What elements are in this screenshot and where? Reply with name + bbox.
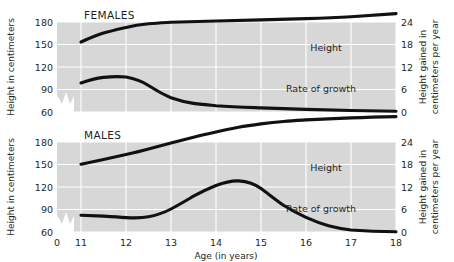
males-left-tick-180: 180	[35, 137, 53, 148]
females-right-tick-0: 0	[401, 107, 407, 118]
x-tick-15: 15	[255, 237, 267, 248]
females-left-tick-60: 60	[41, 107, 53, 118]
females-left-axis-title: Height in centimeters	[6, 18, 16, 116]
females-left-tick-90: 90	[41, 84, 53, 95]
x-axis-title: Age (in years)	[194, 251, 257, 261]
males-left-tick-90: 90	[41, 204, 53, 215]
x-tick-18: 18	[390, 237, 402, 248]
males-left-tick-150: 150	[35, 159, 53, 170]
females-panel-title: FEMALES	[84, 9, 135, 21]
x-tick-0: 0	[54, 237, 60, 248]
x-tick-12: 12	[120, 237, 132, 248]
males-rate-of-growth-label: Rate of growth	[286, 203, 356, 214]
males-left-tick-120: 120	[35, 182, 53, 193]
x-tick-13: 13	[165, 237, 177, 248]
females-left-tick-150: 150	[35, 39, 53, 50]
females-height-label: Height	[310, 42, 342, 53]
females-right-tick-24: 24	[401, 17, 413, 28]
males-right-tick-6: 6	[401, 204, 407, 215]
males-right-axis-title-line1: Height gained in	[418, 150, 428, 224]
males-left-tick-60: 60	[41, 227, 53, 238]
males-panel-title: MALES	[84, 129, 121, 141]
females-right-axis-title-line2: centimeters per year	[430, 19, 440, 114]
females-left-tick-180: 180	[35, 17, 53, 28]
males-left-axis-title: Height in centimeters	[6, 138, 16, 236]
females-right-tick-6: 6	[401, 84, 407, 95]
females-right-axis-title-line1: Height gained in	[418, 30, 428, 104]
females-left-tick-120: 120	[35, 62, 53, 73]
males-right-tick-12: 12	[401, 182, 413, 193]
x-tick-14: 14	[210, 237, 222, 248]
males-right-axis-title-line2: centimeters per year	[430, 139, 440, 234]
x-tick-16: 16	[300, 237, 312, 248]
females-panel: FEMALES Height Rate of growth 180 150 12…	[6, 9, 440, 118]
growth-chart-figure: FEMALES Height Rate of growth 180 150 12…	[0, 0, 454, 262]
males-height-label: Height	[310, 162, 342, 173]
females-right-tick-12: 12	[401, 62, 413, 73]
males-right-tick-0: 0	[401, 227, 407, 238]
x-tick-17: 17	[345, 237, 357, 248]
females-rate-of-growth-label: Rate of growth	[286, 83, 356, 94]
males-right-tick-18: 18	[401, 159, 413, 170]
x-tick-11: 11	[75, 237, 87, 248]
chart-svg: FEMALES Height Rate of growth 180 150 12…	[0, 0, 454, 262]
females-right-tick-18: 18	[401, 39, 413, 50]
males-right-tick-24: 24	[401, 137, 413, 148]
